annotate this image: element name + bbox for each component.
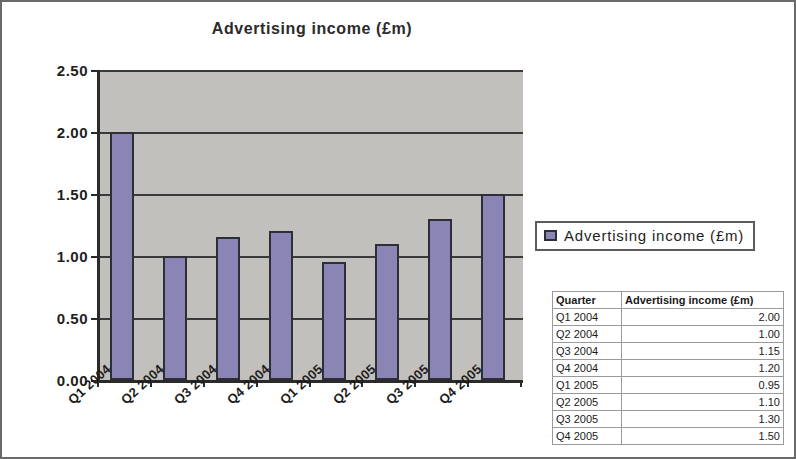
legend-swatch-icon: [544, 230, 557, 241]
table-row: Q1 20050.95: [553, 377, 784, 394]
table-cell-quarter: Q1 2005: [553, 377, 622, 394]
table-cell-value: 1.10: [622, 394, 784, 411]
y-axis-tick: [91, 256, 100, 258]
bar: [163, 256, 187, 380]
table-cell-quarter: Q4 2005: [553, 428, 622, 445]
table-cell-value: 1.30: [622, 411, 784, 428]
chart-title: Advertising income (£m): [2, 20, 622, 38]
bar: [322, 262, 346, 380]
table-row: Q4 20041.20: [553, 360, 784, 377]
gridline: [100, 132, 523, 134]
bar: [269, 231, 293, 380]
table-row: Q2 20041.00: [553, 326, 784, 343]
table-cell-quarter: Q2 2004: [553, 326, 622, 343]
table-cell-value: 1.50: [622, 428, 784, 445]
plot-area: [97, 70, 523, 383]
table-row: Q4 20051.50: [553, 428, 784, 445]
table-row: Q3 20051.30: [553, 411, 784, 428]
table-body: Q1 20042.00Q2 20041.00Q3 20041.15Q4 2004…: [553, 309, 784, 445]
table-row: Q3 20041.15: [553, 343, 784, 360]
table-cell-quarter: Q1 2004: [553, 309, 622, 326]
gridline: [100, 194, 523, 196]
x-axis-label-group: Q1 2004Q2 2004Q3 2004Q4 2004Q1 2005Q2 20…: [2, 388, 562, 458]
table-cell-value: 0.95: [622, 377, 784, 394]
table-header-row: Quarter Advertising income (£m): [553, 292, 784, 309]
y-axis-label: 1.00: [18, 248, 88, 265]
y-axis-label: 1.50: [18, 186, 88, 203]
table-cell-quarter: Q4 2004: [553, 360, 622, 377]
y-axis-tick: [91, 70, 100, 72]
legend-label: Advertising income (£m): [564, 227, 744, 244]
y-axis-tick: [91, 132, 100, 134]
table-row: Q1 20042.00: [553, 309, 784, 326]
y-axis-label-group: 2.502.001.501.000.500.00: [10, 70, 88, 380]
table-cell-value: 1.15: [622, 343, 784, 360]
bar: [216, 237, 240, 380]
y-axis-label: 0.50: [18, 310, 88, 327]
table-cell-quarter: Q3 2005: [553, 411, 622, 428]
y-axis-tick: [91, 318, 100, 320]
bar: [110, 132, 134, 380]
y-axis-tick: [91, 194, 100, 196]
bar: [375, 244, 399, 380]
data-table: Quarter Advertising income (£m) Q1 20042…: [552, 291, 784, 445]
y-axis-label: 2.50: [18, 62, 88, 79]
table-cell-value: 1.00: [622, 326, 784, 343]
chart-legend: Advertising income (£m): [535, 221, 755, 251]
table-row: Q2 20051.10: [553, 394, 784, 411]
y-axis-label: 2.00: [18, 124, 88, 141]
table-cell-value: 2.00: [622, 309, 784, 326]
x-axis-tick: [520, 380, 522, 387]
bar: [428, 219, 452, 380]
gridline: [100, 70, 523, 72]
table-cell-quarter: Q2 2005: [553, 394, 622, 411]
chart-page: Advertising income (£m) 2.502.001.501.00…: [0, 0, 796, 459]
table-cell-quarter: Q3 2004: [553, 343, 622, 360]
bar: [481, 194, 505, 380]
table-header-quarter: Quarter: [553, 292, 622, 309]
table-cell-value: 1.20: [622, 360, 784, 377]
table-header-value: Advertising income (£m): [622, 292, 784, 309]
